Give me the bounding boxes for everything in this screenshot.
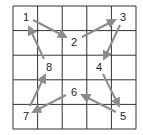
point-label-4: 4 — [96, 61, 102, 73]
point-labels: 12345678 — [23, 11, 126, 122]
point-label-7: 7 — [23, 110, 29, 122]
point-label-3: 3 — [120, 11, 126, 23]
grid-lines — [13, 6, 136, 129]
point-label-5: 5 — [120, 110, 126, 122]
point-label-1: 1 — [23, 11, 29, 23]
point-label-8: 8 — [46, 61, 52, 73]
arrows — [29, 20, 120, 112]
arrow-8-to-1 — [29, 27, 44, 59]
point-label-2: 2 — [71, 36, 77, 48]
point-label-6: 6 — [71, 86, 77, 98]
grid-diagram: 12345678 — [0, 0, 143, 135]
